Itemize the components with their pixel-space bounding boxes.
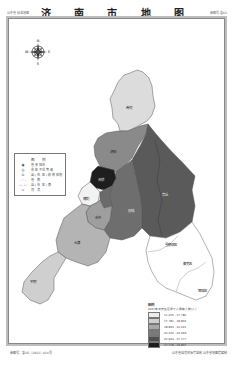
symbol-legend: 图 例 ◉ 省会城市 ◎ 市区不详等级 ⊙ 县(市,区)政府驻地 - · - 省… bbox=[14, 153, 66, 196]
legend-row: ≈ 河 流 bbox=[15, 187, 65, 192]
county-boundary-icon: — — bbox=[18, 183, 28, 186]
river-icon: ≈ bbox=[18, 188, 28, 191]
compass-e: E bbox=[48, 50, 50, 54]
label-jiyang: 济阳 bbox=[110, 149, 117, 154]
label-laiwu: 莱芜区 bbox=[183, 261, 193, 266]
label-shanghe: 商河 bbox=[126, 105, 133, 110]
label-gangcheng: 钢城区 bbox=[198, 288, 208, 293]
compass-rose-icon: N S W E bbox=[25, 39, 50, 66]
compass-s: S bbox=[37, 62, 40, 66]
provincial-boundary-icon: - · - bbox=[18, 178, 28, 181]
choropleth-legend: 图例 2021年济南各区县千人拥有人数(人) 11.615 - 17.780 1… bbox=[148, 302, 220, 348]
compass-w: W bbox=[25, 50, 29, 54]
label-shizhong: 市中 bbox=[95, 215, 102, 220]
district-shanghe[interactable] bbox=[110, 70, 155, 131]
city-district-icon: ◎ bbox=[18, 168, 28, 171]
legend-row: ⊙ 县(市,区)政府驻地 bbox=[15, 172, 65, 177]
label-pingyin: 平阴 bbox=[30, 279, 37, 284]
label-xueye: 雪野湖区 bbox=[165, 242, 178, 247]
label-tianqiao: 天桥 bbox=[98, 177, 105, 182]
swatch-6 bbox=[148, 342, 160, 348]
choropleth-subtitle: 2021年济南各区县千人拥有人数(人) bbox=[148, 307, 220, 311]
provincial-capital-icon: ◉ bbox=[18, 163, 28, 166]
label-huaiyin: 槐荫 bbox=[83, 196, 90, 201]
footer-left-text: 审图号：鲁SG（2022）024号 bbox=[10, 351, 52, 355]
label-licheng: 历城 bbox=[128, 208, 135, 213]
county-seat-icon: ⊙ bbox=[18, 173, 28, 176]
label-zhangqiu: 章丘 bbox=[162, 192, 169, 197]
label-changqing: 长清 bbox=[74, 240, 81, 245]
choropleth-class: 27.178 - 33.837 bbox=[148, 342, 220, 348]
compass-n: N bbox=[37, 39, 40, 43]
district-pingyin[interactable] bbox=[22, 252, 66, 304]
footer-right-text: 山东省自然资源厅监制 山东省地图院编制 bbox=[172, 351, 227, 355]
